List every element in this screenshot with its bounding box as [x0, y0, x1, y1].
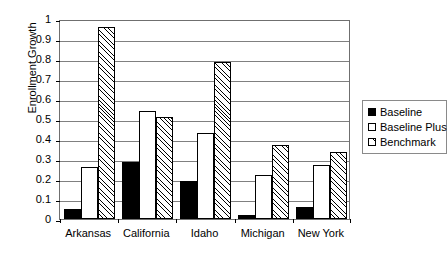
bar [156, 117, 173, 219]
y-axis-tick-label: 0.7 [21, 74, 51, 85]
y-axis-tick-label: 0 [21, 214, 51, 225]
x-axis-tick [118, 219, 119, 223]
bar [330, 152, 347, 219]
y-axis-tick [56, 61, 60, 62]
legend-item-baseline[interactable]: Baseline [368, 105, 442, 119]
bar [313, 165, 330, 219]
bar [180, 181, 197, 219]
y-axis-tick [56, 81, 60, 82]
y-axis-tick-label: 0.5 [21, 114, 51, 125]
chart-legend: Baseline Baseline Plus Benchmark [362, 100, 447, 154]
diagonal-hatch-swatch-icon [368, 138, 376, 146]
y-axis-tick-label: 0.2 [21, 174, 51, 185]
x-axis-tick [235, 219, 236, 223]
legend-item-benchmark[interactable]: Benchmark [368, 135, 442, 149]
bar [272, 145, 289, 219]
y-axis-tick [56, 201, 60, 202]
y-axis-tick [56, 161, 60, 162]
bar-chart: Enrollment Growth 10.90.80.70.60.50.40.3… [0, 0, 448, 264]
legend-item-baseline-plus[interactable]: Baseline Plus [368, 120, 442, 134]
bar [98, 27, 115, 219]
white-outline-swatch-icon [368, 123, 376, 131]
y-axis-tick-label: 0.9 [21, 34, 51, 45]
y-axis-tick-label: 0.4 [21, 134, 51, 145]
x-axis-tick [60, 219, 61, 223]
bar [214, 62, 231, 219]
y-axis-tick-label: 1 [21, 14, 51, 25]
y-axis-tick-label: 0.3 [21, 154, 51, 165]
x-axis-tick [176, 219, 177, 223]
bar [122, 162, 139, 219]
y-axis-tick-label: 0.8 [21, 54, 51, 65]
y-axis-tick [56, 101, 60, 102]
solid-black-swatch-icon [368, 108, 376, 116]
y-axis-tick [56, 21, 60, 22]
legend-label: Benchmark [380, 137, 436, 148]
bar [64, 209, 81, 219]
legend-label: Baseline Plus [380, 122, 447, 133]
x-axis-tick-label: New York [271, 227, 371, 239]
y-axis-tick [56, 141, 60, 142]
x-axis-tick [293, 219, 294, 223]
bar [81, 167, 98, 219]
y-axis-tick [56, 121, 60, 122]
bar [139, 111, 156, 219]
bar [238, 215, 255, 219]
y-axis-tick-label: 0.6 [21, 94, 51, 105]
y-axis-tick [56, 181, 60, 182]
plot-area [59, 20, 350, 220]
x-axis-tick [350, 219, 351, 223]
bar [197, 133, 214, 219]
y-axis-tick-label: 0.1 [21, 194, 51, 205]
bar [296, 207, 313, 219]
y-axis-tick [56, 41, 60, 42]
legend-label: Baseline [380, 107, 422, 118]
bar [255, 175, 272, 219]
